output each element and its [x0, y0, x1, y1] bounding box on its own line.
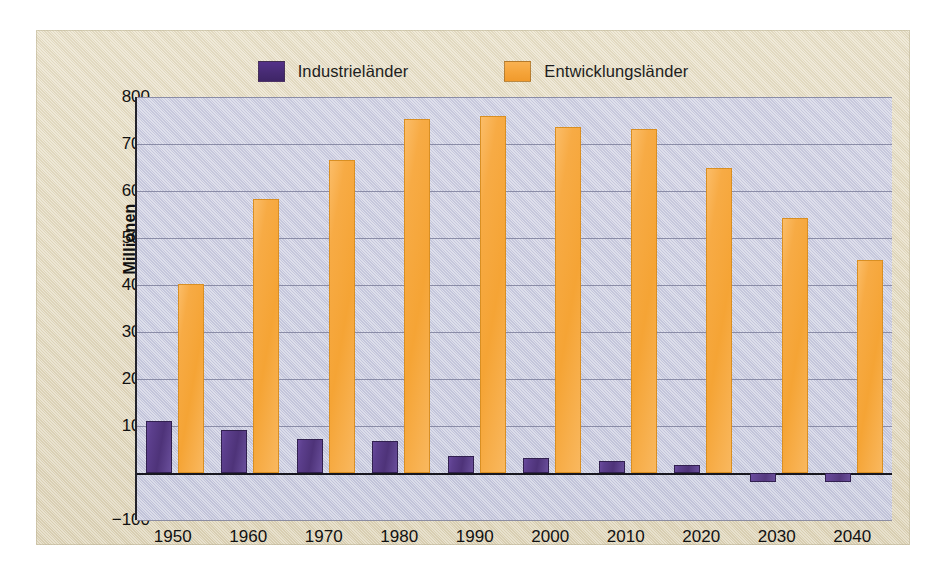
- bar-industrieländer-2000: [523, 458, 549, 473]
- x-axis-tick-label: 1980: [380, 527, 418, 547]
- bar-industrieländer-1970: [297, 439, 323, 473]
- bar-entwicklungsländer-2030: [782, 218, 808, 473]
- bar-entwicklungsländer-1960: [253, 199, 279, 473]
- bar-entwicklungsländer-2000: [555, 127, 581, 473]
- bar-entwicklungsländer-2010: [631, 129, 657, 473]
- bar-group: [137, 97, 213, 520]
- bar-group: [741, 97, 817, 520]
- gridline: [137, 520, 892, 521]
- x-axis-tick-label: 1970: [305, 527, 343, 547]
- bar-industrieländer-1990: [448, 456, 474, 473]
- bar-group: [439, 97, 515, 520]
- x-axis-tick-label: 2030: [758, 527, 796, 547]
- bar-entwicklungsländer-1950: [178, 284, 204, 473]
- chart-legend: Industrieländer Entwicklungsländer: [36, 58, 910, 84]
- plot-area: [135, 97, 892, 520]
- bar-group: [288, 97, 364, 520]
- bar-industrieländer-2020: [674, 465, 700, 473]
- legend-entry-industrielaender: Industrieländer: [258, 61, 409, 82]
- bar-group: [364, 97, 440, 520]
- figure-root: Industrieländer Entwicklungsländer Milli…: [0, 0, 945, 570]
- bar-industrieländer-2030: [750, 473, 776, 482]
- bar-group: [590, 97, 666, 520]
- x-axis-tick-label: 2000: [531, 527, 569, 547]
- bar-group: [817, 97, 893, 520]
- bar-entwicklungsländer-1990: [480, 116, 506, 473]
- bar-entwicklungsländer-2020: [706, 168, 732, 474]
- x-axis-tick-label: 1950: [154, 527, 192, 547]
- bar-series-container: [137, 97, 892, 520]
- bar-group: [515, 97, 591, 520]
- bar-entwicklungsländer-1980: [404, 119, 430, 473]
- bar-group: [666, 97, 742, 520]
- bar-industrieländer-2040: [825, 473, 851, 482]
- x-axis-tick-labels: 1950196019701980199020002010202020302040: [135, 527, 890, 557]
- legend-entry-entwicklungslaender: Entwicklungsländer: [504, 61, 688, 82]
- bar-entwicklungsländer-1970: [329, 160, 355, 473]
- x-axis-tick-label: 2010: [607, 527, 645, 547]
- bar-industrieländer-1960: [221, 430, 247, 473]
- bar-industrieländer-1950: [146, 421, 172, 473]
- x-axis-tick-label: 1960: [229, 527, 267, 547]
- x-axis-tick-label: 1990: [456, 527, 494, 547]
- legend-label-entwicklungslaender: Entwicklungsländer: [544, 62, 688, 81]
- legend-label-industrielaender: Industrieländer: [298, 62, 409, 81]
- legend-swatch-icon-entwicklungslaender: [504, 61, 531, 82]
- bar-group: [213, 97, 289, 520]
- legend-swatch-icon-industrielaender: [258, 61, 285, 82]
- bar-industrieländer-2010: [599, 461, 625, 473]
- x-axis-tick-label: 2020: [682, 527, 720, 547]
- chart-panel: Industrieländer Entwicklungsländer Milli…: [36, 30, 910, 545]
- bar-entwicklungsländer-2040: [857, 260, 883, 473]
- bar-industrieländer-1980: [372, 441, 398, 473]
- x-axis-tick-label: 2040: [833, 527, 871, 547]
